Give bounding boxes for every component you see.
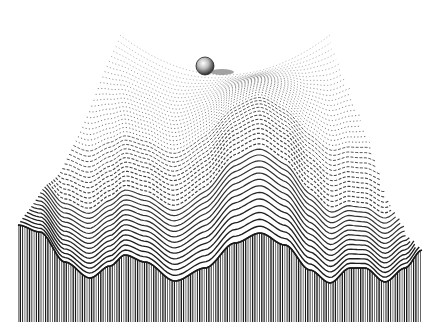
epigenetic-landscape-illustration <box>0 0 439 335</box>
contour-line <box>105 72 342 98</box>
ball <box>196 57 234 75</box>
landscape-engraving <box>0 0 439 335</box>
ball-shadow <box>210 69 234 75</box>
contour-line <box>69 104 375 162</box>
contour-line <box>82 88 361 137</box>
contour-line <box>102 76 345 101</box>
contour-line <box>113 51 335 83</box>
contour-line <box>47 149 395 218</box>
contour-line <box>116 46 332 80</box>
contour-line <box>93 80 351 117</box>
contour-line <box>87 84 360 129</box>
contour-line <box>120 35 330 75</box>
contour-line <box>98 78 350 109</box>
contour-line <box>42 161 399 229</box>
contour-line <box>73 98 370 154</box>
